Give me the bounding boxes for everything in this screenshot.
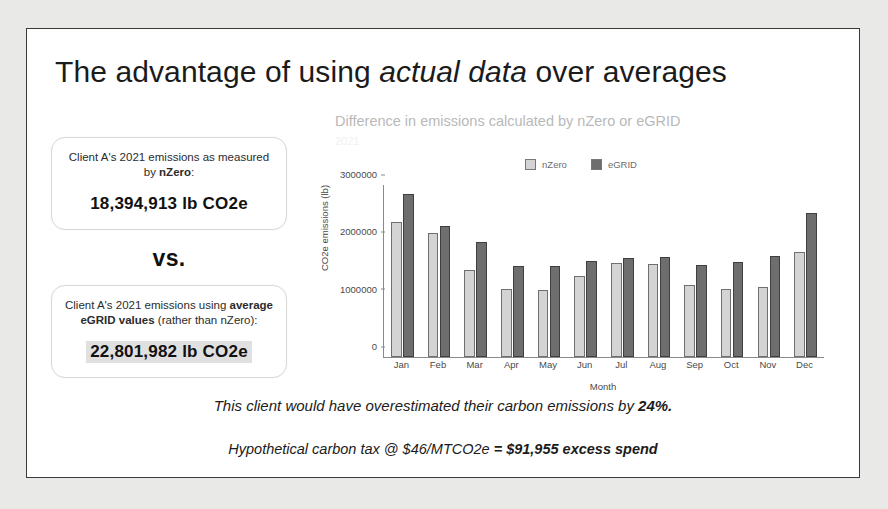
versus-label: vs. — [51, 245, 287, 272]
chart-x-tick: Jun — [568, 359, 602, 375]
bar-egrid-oct[interactable] — [733, 262, 744, 357]
bar-nzero-apr[interactable] — [501, 289, 512, 357]
bar-group — [758, 185, 781, 357]
bar-group — [391, 185, 414, 357]
bar-group — [684, 185, 707, 357]
title-emphasis: actual data — [379, 55, 527, 88]
bar-nzero-mar[interactable] — [464, 270, 475, 357]
carbon-tax-statement: Hypothetical carbon tax @ $46/MTCO2e = $… — [27, 441, 859, 457]
nzero-callout-card: Client A's 2021 emissions as measured by… — [51, 137, 287, 230]
chart-x-tick: Sep — [678, 359, 712, 375]
emissions-bar-chart: Difference in emissions calculated by nZ… — [311, 113, 851, 413]
chart-x-tick: Jul — [604, 359, 638, 375]
chart-y-tick: 0 — [372, 341, 384, 352]
nzero-lead-post: : — [191, 166, 194, 178]
bar-nzero-sep[interactable] — [684, 285, 695, 357]
legend-item-nzero[interactable]: nZero — [525, 159, 567, 170]
bar-egrid-nov[interactable] — [770, 256, 781, 357]
nzero-emissions-value: 18,394,913 lb CO2e — [86, 193, 252, 215]
bar-egrid-dec[interactable] — [806, 213, 817, 357]
slide-canvas: The advantage of using actual data over … — [26, 28, 860, 478]
carbon-tax-amount: = $91,955 excess spend — [494, 441, 658, 457]
title-suffix: over averages — [527, 55, 727, 88]
egrid-callout-description: Client A's 2021 emissions using average … — [62, 298, 276, 328]
bar-egrid-feb[interactable] — [440, 226, 451, 357]
bar-group — [574, 185, 597, 357]
bar-nzero-dec[interactable] — [794, 252, 805, 357]
bar-egrid-jan[interactable] — [403, 194, 414, 357]
chart-x-tick: Feb — [421, 359, 455, 375]
legend-swatch-nzero-icon — [525, 159, 536, 170]
bar-egrid-aug[interactable] — [660, 257, 671, 357]
bar-egrid-may[interactable] — [550, 266, 561, 357]
chart-y-tick: 2000000 — [340, 226, 384, 237]
chart-legend: nZeroeGRID — [311, 159, 851, 170]
legend-label: nZero — [542, 159, 567, 170]
bar-group — [611, 185, 634, 357]
chart-x-tick: Jan — [384, 359, 418, 375]
bar-nzero-may[interactable] — [538, 290, 549, 357]
chart-subtitle: 2021 — [335, 135, 359, 147]
overestimate-percent: 24%. — [638, 397, 672, 414]
bar-group — [648, 185, 671, 357]
bar-egrid-jun[interactable] — [586, 261, 597, 357]
bar-nzero-oct[interactable] — [721, 289, 732, 357]
carbon-tax-text: Hypothetical carbon tax @ $46/MTCO2e — [228, 441, 493, 457]
chart-plot-area: 0100000020000003000000 — [383, 185, 824, 358]
comparison-panel: Client A's 2021 emissions as measured by… — [51, 137, 287, 378]
chart-x-tick: Apr — [494, 359, 528, 375]
legend-label: eGRID — [608, 159, 637, 170]
bar-nzero-nov[interactable] — [758, 287, 769, 357]
nzero-callout-description: Client A's 2021 emissions as measured by… — [62, 150, 276, 180]
chart-title: Difference in emissions calculated by nZ… — [335, 113, 680, 129]
bar-egrid-mar[interactable] — [476, 242, 487, 357]
bar-group — [464, 185, 487, 357]
legend-swatch-egrid-icon — [591, 159, 602, 170]
bar-nzero-aug[interactable] — [648, 264, 659, 357]
overestimate-text: This client would have overestimated the… — [214, 397, 638, 414]
chart-x-tick: Oct — [714, 359, 748, 375]
chart-y-axis-label: CO2e emissions (lb) — [319, 185, 330, 271]
egrid-lead-pre: Client A's 2021 emissions using — [65, 299, 230, 311]
bar-egrid-jul[interactable] — [623, 258, 634, 357]
bar-egrid-apr[interactable] — [513, 266, 524, 357]
chart-x-tick: Nov — [751, 359, 785, 375]
bar-egrid-sep[interactable] — [696, 265, 707, 357]
bar-nzero-jun[interactable] — [574, 276, 585, 357]
chart-x-axis-label: Month — [383, 381, 823, 392]
egrid-lead-post: (rather than nZero): — [155, 314, 258, 326]
chart-x-tick: May — [531, 359, 565, 375]
egrid-callout-card: Client A's 2021 emissions using average … — [51, 285, 287, 378]
chart-x-tick: Mar — [458, 359, 492, 375]
chart-y-tick: 3000000 — [340, 169, 384, 180]
bar-nzero-feb[interactable] — [428, 233, 439, 357]
egrid-emissions-value: 22,801,982 lb CO2e — [86, 341, 252, 363]
chart-bars — [384, 185, 824, 357]
nzero-lead-bold: nZero — [159, 166, 191, 178]
bar-group — [721, 185, 744, 357]
bar-group — [538, 185, 561, 357]
bar-group — [501, 185, 524, 357]
title-prefix: The advantage of using — [55, 55, 379, 88]
legend-item-egrid[interactable]: eGRID — [591, 159, 637, 170]
bar-group — [428, 185, 451, 357]
bar-nzero-jul[interactable] — [611, 263, 622, 357]
chart-x-tick: Dec — [788, 359, 822, 375]
page-title: The advantage of using actual data over … — [55, 55, 727, 89]
chart-x-axis-ticks: JanFebMarAprMayJunJulAugSepOctNovDec — [383, 359, 823, 375]
chart-x-tick: Aug — [641, 359, 675, 375]
bar-nzero-jan[interactable] — [391, 222, 402, 357]
chart-y-tick: 1000000 — [340, 283, 384, 294]
overestimate-statement: This client would have overestimated the… — [27, 397, 859, 414]
bar-group — [794, 185, 817, 357]
